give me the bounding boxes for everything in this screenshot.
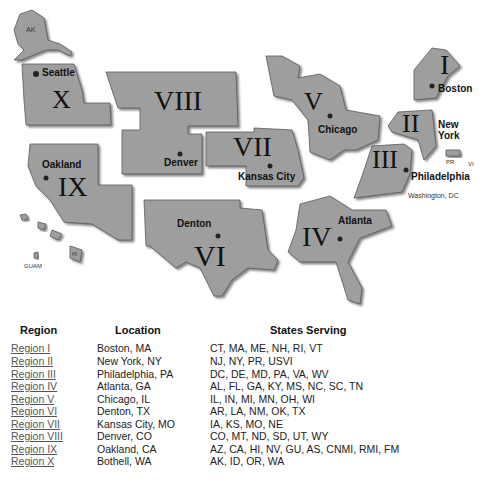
washington-dc-label: Washington, DC — [408, 192, 459, 200]
region-viii-numeral: VIII — [154, 85, 202, 116]
region-iv[interactable]: Atlanta IV — [288, 196, 392, 304]
states-cell: IA, KS, MO, NE — [210, 418, 283, 430]
header-region: Region — [20, 324, 57, 336]
region-iv-link[interactable]: Region IV — [11, 380, 57, 392]
region-vi[interactable]: Denton VI — [144, 200, 278, 296]
location-cell: Oakland, CA — [97, 443, 157, 455]
location-cell: Philadelphia, PA — [97, 368, 173, 380]
new-york-label-line1: New — [438, 119, 459, 130]
location-cell: Chicago, IL — [97, 393, 150, 405]
region-ii-numeral: II — [402, 109, 419, 138]
region-iii-link[interactable]: Region III — [11, 368, 56, 380]
kansas-city-marker-icon — [268, 164, 273, 169]
states-cell: CO, MT, ND, SD, UT, WY — [210, 430, 328, 442]
boston-marker-icon — [430, 84, 435, 89]
location-cell: Boston, MA — [97, 342, 151, 354]
denton-marker-icon — [216, 234, 221, 239]
region-vi-link[interactable]: Region VI — [11, 405, 57, 417]
oakland-label: Oakland — [42, 159, 81, 170]
region-vi-numeral: VI — [194, 239, 226, 272]
states-cell: DC, DE, MD, PA, VA, WV — [210, 368, 329, 380]
denver-label: Denver — [164, 157, 198, 168]
oakland-marker-icon — [44, 176, 49, 181]
states-cell: AZ, CA, HI, NV, GU, AS, CNMI, RMI, FM — [210, 443, 399, 455]
states-cell: AR, LA, NM, OK, TX — [210, 405, 306, 417]
chicago-marker-icon — [328, 114, 333, 119]
header-location: Location — [115, 324, 161, 336]
region-x[interactable]: Seattle X — [22, 64, 111, 125]
location-cell: Denver, CO — [97, 430, 152, 442]
states-cell: AL, FL, GA, KY, MS, NC, SC, TN — [210, 380, 363, 392]
denver-marker-icon — [178, 152, 183, 157]
location-cell: Atlanta, GA — [97, 380, 151, 392]
region-i-link[interactable]: Region I — [11, 342, 50, 354]
location-cell: New York, NY — [97, 355, 162, 367]
region-v-link[interactable]: Region V — [11, 393, 54, 405]
region-x-numeral: X — [52, 85, 71, 114]
region-x-link[interactable]: Region X — [11, 455, 54, 467]
region-vii[interactable]: Kansas City VII — [206, 128, 304, 186]
region-vii-numeral: VII — [233, 131, 272, 162]
virgin-islands-label: VI — [468, 161, 474, 167]
alaska-label: AK — [26, 26, 36, 33]
region-ix-link[interactable]: Region IX — [11, 443, 57, 455]
philadelphia-marker-icon — [404, 168, 409, 173]
states-cell: CT, MA, ME, NH, RI, VT — [210, 342, 323, 354]
atlanta-marker-icon — [338, 237, 343, 242]
seattle-label: Seattle — [42, 67, 75, 78]
hawaii-label: HI — [72, 251, 77, 257]
states-cell: AK, ID, OR, WA — [210, 455, 284, 467]
region-viii-link[interactable]: Region VIII — [11, 430, 63, 442]
regions-map: AK Seattle X Denver VIII Oakland IX HI G… — [0, 0, 483, 315]
philadelphia-label: Philadelphia — [411, 171, 470, 182]
header-states: States Serving — [270, 324, 346, 336]
region-vii-link[interactable]: Region VII — [11, 418, 60, 430]
denton-label: Denton — [177, 218, 211, 229]
boston-label: Boston — [438, 83, 472, 94]
new-york-label-line2: York — [438, 130, 460, 141]
region-ix-numeral: IX — [58, 171, 88, 202]
region-iv-numeral: IV — [302, 221, 332, 252]
location-cell: Bothell, WA — [97, 455, 151, 467]
location-cell: Denton, TX — [97, 405, 150, 417]
region-i[interactable]: Boston I — [414, 48, 472, 100]
guam-label: GUAM — [24, 263, 42, 269]
region-iii-numeral: III — [372, 145, 398, 174]
region-i-numeral: I — [440, 49, 449, 80]
region-alaska[interactable]: AK — [14, 10, 72, 60]
region-ii-link[interactable]: Region II — [11, 355, 53, 367]
chicago-label: Chicago — [318, 124, 357, 135]
states-cell: IL, IN, MI, MN, OH, WI — [210, 393, 315, 405]
puerto-rico-label: PR — [446, 159, 455, 165]
seattle-marker-icon — [33, 71, 39, 77]
kansas-city-label: Kansas City — [238, 171, 296, 182]
location-cell: Kansas City, MO — [97, 418, 175, 430]
states-cell: NJ, NY, PR, USVI — [210, 355, 293, 367]
region-ix[interactable]: Oakland IX HI GUAM — [20, 144, 132, 269]
atlanta-label: Atlanta — [338, 215, 372, 226]
region-v-numeral: V — [304, 87, 323, 116]
